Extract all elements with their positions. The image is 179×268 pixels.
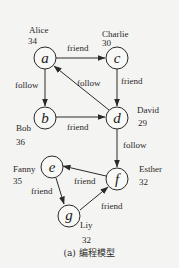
node-name: Esther [139,164,162,174]
edge-d-a: follow [54,66,109,110]
edge-a-b: follow [15,69,45,106]
node-age: 36 [16,137,26,147]
edge-label: friend [74,176,96,186]
node-name: Bob [16,123,32,133]
node-name: Fanny [13,164,36,174]
edge-c-d: friend [117,69,143,106]
node-age: 29 [138,118,148,128]
edge-label: friend [67,43,89,53]
node-c: c Charlie 30 [102,29,129,69]
edge-label: friend [31,186,53,196]
edge-label: follow [15,80,39,90]
node-letter: c [114,50,121,66]
edge-label: follow [77,78,101,88]
edge-a-c: friend [56,43,105,58]
edge-e-g: friend [31,178,64,204]
figure-caption: (a) 编程模型 [63,247,114,258]
node-age: 30 [102,38,112,48]
node-a: a Alice 34 [28,25,56,69]
node-age: 32 [139,177,148,187]
node-name: Liy [80,220,93,230]
node-d: d David 29 [106,105,159,129]
node-age: 34 [28,36,38,46]
node-letter: b [41,110,49,126]
node-g: g Liy 32 [58,205,93,245]
graph-diagram: friend follow friend follow friend follo… [0,0,179,268]
edge-f-e: friend [63,166,106,186]
edge-label: follow [123,140,147,150]
node-letter: d [113,110,121,126]
node-age: 35 [13,176,23,186]
node-e: e Fanny 35 [13,156,63,186]
node-name: Alice [29,25,49,35]
node-f: f Esther 32 [106,164,162,190]
edge-b-d: friend [56,117,105,132]
node-name: David [137,105,159,115]
edge-d-f: follow [117,129,147,167]
node-b: b Bob 36 [16,107,56,147]
edge-label: friend [121,76,143,86]
node-letter: g [65,207,73,223]
edge-label: friend [101,201,123,211]
edge-label: friend [67,122,89,132]
edge-g-f: friend [80,187,123,211]
node-age: 32 [82,235,91,245]
node-letter: e [49,159,56,175]
node-letter: a [41,50,49,66]
